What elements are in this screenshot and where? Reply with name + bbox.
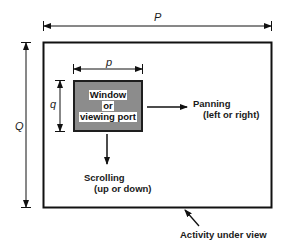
scrolling-title: Scrolling	[84, 172, 125, 183]
outer-height-label: Q	[15, 121, 24, 132]
panning-title: Panning	[193, 98, 230, 109]
activity-label: Activity under view	[180, 229, 267, 240]
window-height-label: q	[50, 99, 56, 110]
panning-subtitle: (left or right)	[203, 109, 259, 120]
outer-width-label: P	[154, 12, 161, 23]
window-width-label: p	[106, 57, 112, 68]
viewing-port-line-2: or	[102, 101, 114, 111]
window-height-dimension	[55, 81, 65, 132]
scrolling-subtitle: (up or down)	[94, 183, 152, 194]
activity-pointer-arrow-icon	[185, 210, 199, 226]
viewing-port-label: Window or viewing port	[73, 80, 143, 131]
viewing-port-line-1: Window	[89, 90, 127, 100]
viewing-port-line-3: viewing port	[79, 112, 137, 122]
